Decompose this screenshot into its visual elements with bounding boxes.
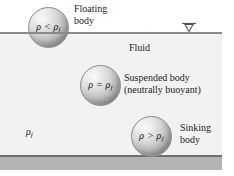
body-floating-sphere: ρ < ρf [28,7,69,48]
fluid-label: Fluid [129,42,150,54]
buoyancy-diagram: ρ < ρf ρ = ρf ρ > ρf Floating body Fluid… [0,0,234,176]
body-sinking-condition: ρ > ρf [139,130,164,143]
free-surface-line [0,32,222,34]
body-sinking-caption-line1: Sinking [180,122,211,134]
body-suspended-condition: ρ = ρf [88,79,113,92]
body-suspended-sphere: ρ = ρf [80,65,121,106]
body-floating-caption-line1: Floating [74,3,107,15]
body-floating-caption: Floating body [74,3,107,26]
body-floating-caption-line2: body [74,15,107,27]
body-sinking-sphere: ρ > ρf [131,116,172,157]
fluid-density-label: ρf [26,126,33,142]
bed-band [0,157,222,170]
body-sinking-caption: Sinking body [180,122,211,145]
body-suspended-caption-line2: (neutrally buoyant) [124,84,201,96]
body-suspended-caption: Suspended body (neutrally buoyant) [124,72,201,95]
body-sinking-caption-line2: body [180,134,211,146]
body-suspended-caption-line1: Suspended body [124,72,201,84]
